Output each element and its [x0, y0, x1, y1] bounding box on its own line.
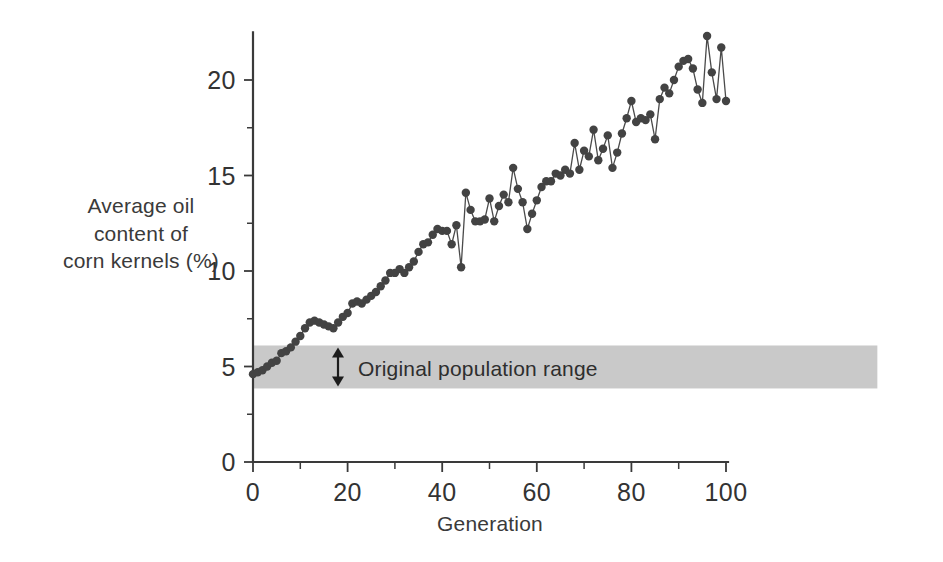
y-tick-label-5: 5	[222, 353, 236, 381]
y-axis-title: Average oil content of corn kernels (%)	[56, 192, 226, 275]
axis-layer	[244, 32, 728, 472]
data-point	[272, 357, 280, 365]
data-point	[509, 164, 517, 172]
y-tick-label-0: 0	[222, 448, 236, 476]
data-point	[523, 225, 531, 233]
data-point	[651, 135, 659, 143]
y-axis-title-line-3: corn kernels (%)	[56, 247, 226, 275]
y-axis-title-line-1: Average oil	[56, 192, 226, 220]
data-point	[656, 95, 664, 103]
data-point	[722, 97, 730, 105]
data-point	[627, 97, 635, 105]
data-point	[466, 206, 474, 214]
original-population-range-label: Original population range	[358, 357, 598, 381]
data-point	[528, 210, 536, 218]
data-point	[490, 217, 498, 225]
y-tick-label-20: 20	[207, 66, 236, 94]
data-point	[608, 164, 616, 172]
data-point	[613, 148, 621, 156]
tick-label-layer: 05101520020406080100	[207, 66, 747, 506]
data-point	[495, 202, 503, 210]
data-point	[585, 152, 593, 160]
data-point	[566, 169, 574, 177]
data-point	[646, 110, 654, 118]
data-point	[381, 276, 389, 284]
data-point	[410, 257, 418, 265]
x-tick-label-20: 20	[333, 478, 362, 506]
data-point	[575, 166, 583, 174]
data-point	[570, 139, 578, 147]
y-tick-label-15: 15	[207, 162, 236, 190]
x-tick-label-40: 40	[428, 478, 457, 506]
figure-container: 05101520020406080100 Average oil content…	[0, 0, 943, 562]
data-point	[481, 215, 489, 223]
data-point	[504, 198, 512, 206]
x-tick-label-100: 100	[704, 478, 747, 506]
data-series-layer	[249, 32, 730, 378]
data-point	[296, 332, 304, 340]
data-point	[622, 114, 630, 122]
data-point	[703, 32, 711, 40]
data-point	[689, 64, 697, 72]
data-point	[533, 196, 541, 204]
x-tick-label-80: 80	[617, 478, 646, 506]
data-point	[447, 240, 455, 248]
data-point	[708, 68, 716, 76]
data-point	[485, 194, 493, 202]
data-point	[514, 185, 522, 193]
data-point	[693, 85, 701, 93]
data-point	[670, 76, 678, 84]
y-axis-title-line-2: content of	[56, 220, 226, 248]
data-point	[462, 188, 470, 196]
data-point	[343, 309, 351, 317]
data-point	[424, 238, 432, 246]
x-tick-label-60: 60	[522, 478, 551, 506]
data-point	[698, 99, 706, 107]
data-point	[599, 145, 607, 153]
data-point	[594, 156, 602, 164]
data-point	[499, 190, 507, 198]
x-tick-label-0: 0	[246, 478, 260, 506]
data-point	[518, 198, 526, 206]
data-point	[457, 263, 465, 271]
data-point	[414, 248, 422, 256]
data-point	[604, 131, 612, 139]
data-point	[684, 55, 692, 63]
data-point	[589, 125, 597, 133]
data-point	[547, 177, 555, 185]
chart-canvas: 05101520020406080100	[0, 0, 943, 562]
data-point	[452, 221, 460, 229]
data-point	[618, 129, 626, 137]
data-point	[665, 89, 673, 97]
x-axis-title: Generation	[380, 510, 600, 538]
data-point	[717, 43, 725, 51]
data-point	[712, 95, 720, 103]
data-point	[443, 227, 451, 235]
